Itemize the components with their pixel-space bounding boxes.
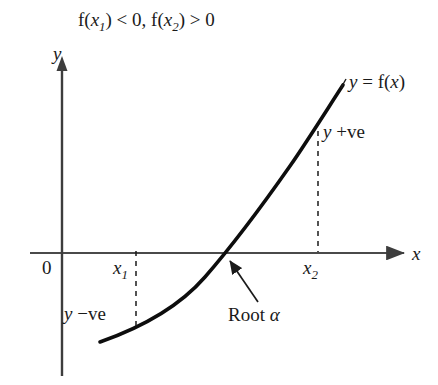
title-mid: ) < 0, f( [106, 9, 164, 30]
x2-tick-label: x2 [303, 258, 318, 277]
origin-label: 0 [42, 258, 52, 277]
root-pointer-arrow [230, 261, 258, 302]
graph-canvas [0, 0, 438, 385]
curve-equation-x: x [390, 71, 398, 92]
title-f1: f( [78, 9, 91, 30]
y-positive-label: y +ve [323, 122, 365, 141]
x-axis-label: x [412, 244, 420, 263]
equals-sign: = [362, 71, 373, 92]
title-end: ) > 0 [179, 9, 215, 30]
x2-sub: 2 [311, 267, 317, 282]
y-axis-label: y [53, 44, 61, 63]
y-negative-sign: −ve [77, 303, 106, 324]
figure-root: f(x1) < 0, f(x2) > 0 y x 0 y = f(x) y +v… [0, 0, 438, 385]
curve-equation-f: f( [378, 71, 391, 92]
title-x2-var: x [164, 9, 172, 30]
curve-equation-close: ) [399, 71, 405, 92]
root-annotation-label: Root α [228, 305, 280, 324]
root-word: Root [228, 304, 265, 325]
y-negative-label: y −ve [64, 304, 106, 323]
x1-tick-label: x1 [113, 258, 128, 277]
y-positive-sign: +ve [336, 121, 365, 142]
title-expression: f(x1) < 0, f(x2) > 0 [78, 10, 215, 29]
root-symbol: α [270, 304, 280, 325]
curve-equation-label: y = f(x) [349, 72, 405, 91]
title-x1-var: x [91, 9, 99, 30]
x1-sub: 1 [121, 267, 127, 282]
